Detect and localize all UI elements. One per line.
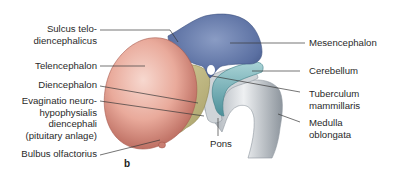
label-cerebellum: Cerebellum	[309, 65, 358, 77]
telencephalon-shape	[104, 38, 197, 149]
label-pons: Pons	[210, 138, 232, 150]
panel-label: b	[124, 158, 130, 169]
label-tuberculum-mammillaris: Tuberculum mammillaris	[309, 88, 360, 111]
bulbus-olfactorius-shape	[159, 142, 166, 148]
label-diencephalon: Diencephalon	[38, 79, 97, 91]
label-mesencephalon: Mesencephalon	[309, 37, 377, 49]
label-evaginatio-neurohypophysialis: Evaginatio neuro- hypophysialis dienceph…	[22, 95, 97, 141]
label-telencephalon: Telencephalon	[35, 60, 97, 72]
label-bulbus-olfactorius: Bulbus olfactorius	[21, 148, 97, 160]
label-medulla-oblongata: Medulla oblongata	[309, 117, 351, 140]
label-sulcus-telodiencephalicus: Sulcus telo- diencephalicus	[34, 23, 97, 46]
